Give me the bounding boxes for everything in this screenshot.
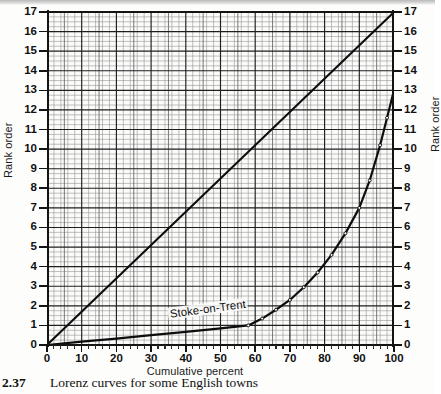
x-tick-40 [185,345,187,352]
x-tick-minor [352,345,353,349]
y-tick-left-3 [39,285,47,287]
y-tick-label-left-5: 5 [31,241,37,253]
x-tick-minor [373,345,374,349]
y-tick-right-5 [394,246,402,248]
y-tick-label-right-7: 7 [404,202,410,214]
x-tick-minor [144,345,145,349]
x-tick-minor [345,345,346,349]
y-tick-right-14 [394,70,402,72]
x-tick-minor [296,345,297,349]
y-tick-label-left-3: 3 [31,280,37,292]
x-tick-minor [137,345,138,349]
y-tick-label-right-3: 3 [404,280,410,292]
x-tick-minor [234,345,235,349]
y-tick-right-15 [394,50,402,52]
y-tick-label-left-14: 14 [24,65,37,77]
caption-text: Lorenz curves for some English towns [50,375,258,391]
y-tick-left-10 [39,148,47,150]
y-tick-label-left-10: 10 [24,143,37,155]
x-tick-minor [338,345,339,349]
y-tick-label-right-16: 16 [404,26,417,38]
y-tick-right-8 [394,187,402,189]
y-tick-left-9 [39,168,47,170]
x-tick-minor [74,345,75,349]
x-tick-label-0: 0 [44,353,50,365]
y-tick-label-right-9: 9 [404,163,410,175]
x-tick-label-60: 60 [249,353,262,365]
x-tick-minor [67,345,68,349]
y-tick-left-8 [39,187,47,189]
y-tick-label-left-9: 9 [31,163,37,175]
y-tick-right-9 [394,168,402,170]
y-tick-left-1 [39,325,47,327]
axis-spine-left [47,10,49,347]
y-tick-right-7 [394,207,402,209]
x-tick-100 [393,345,395,352]
x-tick-minor [88,345,89,349]
x-tick-minor [102,345,103,349]
figure-caption: 2.37 Lorenz curves for some English town… [0,375,435,394]
y-tick-label-right-13: 13 [404,84,417,96]
x-tick-minor [282,345,283,349]
y-tick-label-left-13: 13 [24,84,37,96]
x-tick-minor [157,345,158,349]
y-tick-label-right-17: 17 [404,6,417,18]
x-tick-minor [123,345,124,349]
x-tick-label-10: 10 [75,353,88,365]
y-tick-label-left-12: 12 [24,104,37,116]
x-tick-label-80: 80 [318,353,331,365]
y-tick-label-right-4: 4 [404,261,410,273]
y-tick-label-right-15: 15 [404,45,417,57]
y-tick-right-0 [394,344,402,346]
x-tick-minor [164,345,165,349]
y-tick-left-15 [39,50,47,52]
x-tick-label-50: 50 [214,353,227,365]
y-tick-label-right-8: 8 [404,182,410,194]
x-tick-70 [289,345,291,352]
x-tick-minor [171,345,172,349]
y-tick-left-14 [39,70,47,72]
y-tick-label-left-2: 2 [31,300,37,312]
y-tick-label-left-1: 1 [31,319,37,331]
x-tick-minor [60,345,61,349]
y-tick-right-12 [394,109,402,111]
x-tick-30 [150,345,152,352]
y-tick-right-4 [394,266,402,268]
y-tick-left-7 [39,207,47,209]
y-tick-left-16 [39,31,47,33]
y-tick-label-left-15: 15 [24,45,37,57]
axis-spine-right [392,10,394,347]
x-tick-minor [53,345,54,349]
y-tick-left-2 [39,305,47,307]
y-tick-right-11 [394,129,402,131]
x-tick-minor [192,345,193,349]
y-tick-label-right-1: 1 [404,319,410,331]
x-tick-minor [95,345,96,349]
y-tick-label-left-7: 7 [31,202,37,214]
y-tick-label-right-11: 11 [404,124,416,136]
y-tick-right-13 [394,90,402,92]
y-tick-label-right-14: 14 [404,65,417,77]
y-tick-left-5 [39,246,47,248]
curves-layer [47,12,394,345]
y-tick-left-4 [39,266,47,268]
plot-area [47,12,394,345]
x-tick-0 [46,345,48,352]
y-tick-label-left-8: 8 [31,182,37,194]
x-tick-label-70: 70 [283,353,296,365]
x-tick-label-30: 30 [145,353,158,365]
y-tick-label-left-4: 4 [31,261,37,273]
x-tick-20 [116,345,118,352]
y-tick-right-1 [394,325,402,327]
x-tick-60 [254,345,256,352]
x-tick-minor [199,345,200,349]
y-axis-title-left: Rank order [2,123,14,178]
x-tick-minor [206,345,207,349]
y-tick-label-right-5: 5 [404,241,410,253]
y-tick-label-left-16: 16 [24,26,37,38]
x-tick-label-100: 100 [384,353,403,365]
y-tick-label-left-6: 6 [31,221,37,233]
y-tick-label-right-10: 10 [404,143,417,155]
y-tick-right-3 [394,285,402,287]
